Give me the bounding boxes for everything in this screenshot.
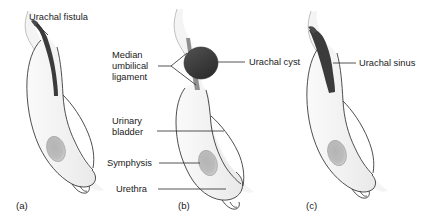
label-urinary-bladder-line1: Urinary — [112, 116, 142, 126]
panel-a: Urachal fistula (a) — [16, 11, 104, 211]
label-urachal-fistula: Urachal fistula — [29, 12, 89, 22]
panel-c: Urachal sinus (c) — [306, 11, 416, 211]
panel-c-caption: (c) — [306, 200, 317, 211]
panel-a-caption: (a) — [16, 200, 28, 211]
label-urachal-cyst: Urachal cyst — [249, 57, 301, 67]
panel-b-urethra — [222, 200, 239, 209]
label-median-umbilical-ligament-line2: umbilical — [112, 61, 148, 71]
panel-b-urachal-cyst-lesion — [184, 47, 218, 79]
panel-b-leader-mul-upper — [158, 53, 187, 66]
label-symphysis: Symphysis — [107, 158, 152, 168]
panel-b: Median umbilical ligament Urachal cyst U… — [107, 9, 301, 211]
panel-b-caption: (b) — [178, 200, 190, 211]
label-median-umbilical-ligament-line1: Median — [112, 50, 143, 60]
figure-canvas: Urachal fistula (a) — [0, 0, 427, 221]
panel-a-bladder-fill — [27, 38, 96, 187]
urachal-anomalies-figure: Urachal fistula (a) — [0, 0, 427, 221]
label-median-umbilical-ligament-line3: ligament — [112, 72, 148, 82]
label-urachal-sinus: Urachal sinus — [359, 58, 416, 68]
label-urinary-bladder-line2: bladder — [112, 127, 143, 137]
label-urethra: Urethra — [116, 184, 148, 194]
panel-b-urethra-inner — [230, 202, 237, 207]
